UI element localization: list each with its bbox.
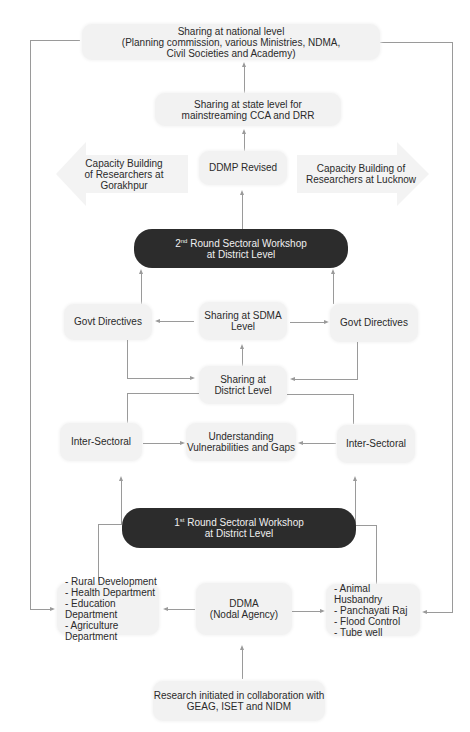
- arrow-head: [240, 645, 244, 650]
- node-workshop-round-2: 2nd Round Sectoral Workshop at District …: [134, 229, 348, 268]
- arrow-head: [320, 609, 325, 613]
- arrow-head: [240, 190, 244, 195]
- connector: [127, 393, 199, 394]
- connector: [143, 443, 180, 444]
- arrow-head: [180, 441, 185, 445]
- node-ddmp-revised: DDMP Revised: [199, 151, 287, 185]
- connector: [141, 273, 142, 304]
- connector: [295, 379, 358, 380]
- node-capacity-gorakhpur: Capacity Building of Researchers at Gora…: [60, 155, 188, 193]
- connector: [160, 321, 194, 322]
- connector: [168, 609, 195, 610]
- arrow-head: [353, 476, 357, 481]
- node-state-sharing: Sharing at state level for mainstreaming…: [155, 93, 341, 126]
- arrow-head: [290, 377, 295, 381]
- node-departments-right: - Animal Husbandry - Panchayati Raj - Fl…: [326, 584, 420, 636]
- node-departments-left: - Rural Development - Health Department …: [57, 583, 159, 635]
- arrow-head: [240, 344, 244, 349]
- node-sdma-sharing: Sharing at SDMA Level: [199, 302, 287, 340]
- connector: [121, 480, 122, 524]
- node-research-initiated: Research initiated in collaboration with…: [153, 681, 325, 721]
- connector: [127, 378, 190, 379]
- connector: [98, 524, 99, 584]
- connector: [355, 480, 356, 526]
- node-ddma: DDMA (Nodal Agency): [196, 583, 292, 635]
- connector: [244, 133, 245, 151]
- arrow-head: [422, 610, 427, 614]
- node-workshop-round-1: 1st Round Sectoral Workshop at District …: [122, 508, 356, 548]
- left-loop-top: [30, 40, 80, 41]
- arrow-head: [139, 269, 143, 274]
- node-inter-sectoral-right: Inter-Sectoral: [337, 425, 415, 463]
- connector: [98, 524, 122, 525]
- node-inter-sectoral-left: Inter-Sectoral: [60, 423, 142, 461]
- node-national-sharing: Sharing at national level (Planning comm…: [82, 24, 380, 60]
- connector: [242, 348, 243, 366]
- arrow-head: [155, 319, 160, 323]
- connector: [356, 525, 376, 526]
- right-loop-line: [452, 42, 453, 613]
- connector: [127, 393, 128, 423]
- right-loop-bottom: [427, 612, 453, 613]
- right-loop-top: [380, 42, 453, 43]
- connector: [292, 611, 320, 612]
- node-capacity-lucknow: Capacity Building of Researchers at Luck…: [297, 155, 425, 193]
- connector: [333, 273, 334, 304]
- connector: [357, 342, 358, 379]
- node-understanding-vulnerabilities: Understanding Vulnerabilities and Gaps: [186, 423, 296, 461]
- arrow-head: [242, 62, 246, 67]
- connector: [303, 443, 336, 444]
- connector: [353, 394, 354, 424]
- connector: [287, 394, 353, 395]
- connector: [376, 525, 377, 584]
- arrow-head: [50, 607, 55, 611]
- connector: [242, 194, 243, 230]
- connector: [242, 649, 243, 679]
- arrow-head: [119, 476, 123, 481]
- arrow-head: [324, 320, 329, 324]
- left-loop-line: [30, 40, 31, 610]
- connector: [244, 66, 245, 93]
- node-govt-directives-left: Govt Directives: [64, 304, 152, 340]
- arrow-head: [163, 607, 168, 611]
- arrow-head: [242, 129, 246, 134]
- connector: [127, 340, 128, 378]
- arrow-head: [190, 376, 195, 380]
- node-district-sharing: Sharing at District Level: [199, 366, 287, 404]
- connector: [290, 322, 324, 323]
- left-loop-bottom: [30, 609, 50, 610]
- arrow-head: [331, 269, 335, 274]
- node-govt-directives-right: Govt Directives: [330, 304, 418, 342]
- arrow-head: [298, 441, 303, 445]
